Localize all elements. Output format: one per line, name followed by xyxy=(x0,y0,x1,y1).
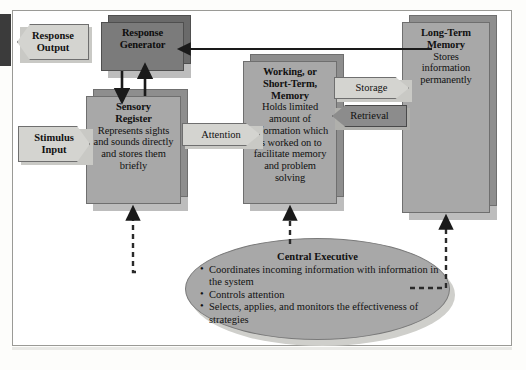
stimulus-input-chevron[interactable]: Stimulus Input xyxy=(18,126,90,162)
list-item: Controls attention xyxy=(200,289,449,301)
attention-text: Attention xyxy=(201,129,241,141)
sensory-register-content: Sensory Register Represents sights and s… xyxy=(86,96,181,176)
attention-label: Attention xyxy=(182,123,260,146)
storage-text: Storage xyxy=(355,82,387,94)
diagram-page: Response Output Response Generator Stimu… xyxy=(0,0,526,370)
list-item: Selects, applies, and monitors the effec… xyxy=(200,301,449,326)
sensory-register-body: Represents sights and sounds directly an… xyxy=(92,125,175,172)
retrieval-chevron[interactable]: Retrieval xyxy=(332,105,407,127)
working-memory-title3: Memory xyxy=(249,90,331,102)
response-generator-title: Response xyxy=(107,27,178,39)
response-output-label: Response Output xyxy=(17,24,89,60)
storage-label: Storage xyxy=(334,77,409,99)
central-executive-face: Central Executive Coordinates incoming i… xyxy=(185,238,450,340)
stimulus-input-text: Stimulus Input xyxy=(34,132,74,155)
response-generator-box[interactable]: Response Generator xyxy=(101,22,184,71)
retrieval-label: Retrieval xyxy=(332,105,407,127)
stimulus-input-label: Stimulus Input xyxy=(18,126,90,162)
scan-edge-artifact xyxy=(0,14,11,66)
central-executive-title: Central Executive xyxy=(277,251,358,262)
attention-chevron[interactable]: Attention xyxy=(182,123,260,146)
long-term-memory-content: Long-Term Memory Stores information perm… xyxy=(402,22,490,90)
working-memory-title2: Short-Term, xyxy=(249,78,331,90)
sensory-register-title: Sensory xyxy=(92,101,175,113)
response-output-chevron[interactable]: Response Output xyxy=(17,24,89,60)
central-executive-oval[interactable]: Central Executive Coordinates incoming i… xyxy=(185,238,450,340)
long-term-memory-title2: Memory xyxy=(408,39,484,51)
response-generator-content: Response Generator xyxy=(101,22,184,55)
sensory-register-title2: Register xyxy=(92,113,175,125)
page-bottom-strip xyxy=(12,347,512,350)
long-term-memory-title: Long-Term xyxy=(408,27,484,39)
long-term-memory-body: Stores information permanently xyxy=(408,51,484,86)
sensory-register-box[interactable]: Sensory Register Represents sights and s… xyxy=(86,96,181,204)
storage-chevron[interactable]: Storage xyxy=(334,77,409,99)
list-item: Coordinates incoming information with in… xyxy=(200,264,449,289)
central-executive-bullet-list: Coordinates incoming information with in… xyxy=(186,264,449,326)
long-term-memory-box[interactable]: Long-Term Memory Stores information perm… xyxy=(402,22,490,213)
response-generator-title2: Generator xyxy=(107,39,178,51)
working-memory-title: Working, or xyxy=(249,66,331,78)
retrieval-text: Retrieval xyxy=(350,110,388,122)
response-output-text: Response Output xyxy=(32,30,74,53)
